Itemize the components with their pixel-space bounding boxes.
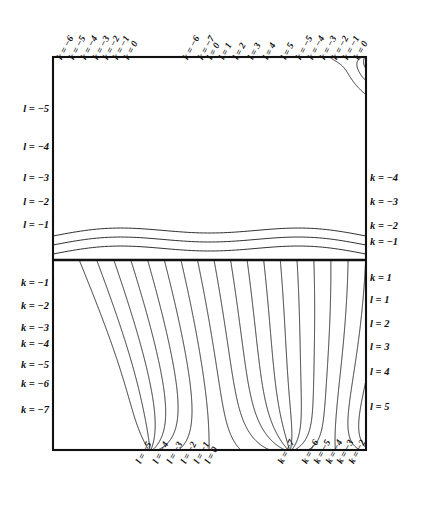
conformal-grid-figure: k = −6k = −5k = −4k = −3k = −2k = −1k = … <box>0 0 421 505</box>
grid-curve <box>292 260 302 450</box>
grid-curve <box>53 228 366 236</box>
grid-curve <box>214 260 270 450</box>
axis-label-right-3: k = −1 <box>370 237 398 248</box>
upper-region-curves <box>53 57 366 254</box>
grid-curve <box>330 57 366 95</box>
axis-label-left-6: k = −2 <box>21 301 49 312</box>
grid-curve <box>181 260 209 450</box>
grid-curves-svg <box>0 0 421 505</box>
axis-label-right-4: k = 1 <box>370 273 392 284</box>
axis-label-right-5: l = 1 <box>370 295 389 306</box>
axis-label-left-2: l = −3 <box>23 173 49 184</box>
axis-label-left-8: k = −4 <box>21 339 49 350</box>
axis-label-right-1: k = −3 <box>370 197 398 208</box>
axis-label-right-6: l = 2 <box>370 319 389 330</box>
grid-curve <box>148 260 178 450</box>
axis-label-left-9: k = −5 <box>21 360 49 371</box>
axis-label-right-0: k = −4 <box>370 173 398 184</box>
grid-curve <box>264 260 290 450</box>
axis-label-left-0: l = −5 <box>23 104 49 115</box>
grid-curve <box>348 260 366 450</box>
grid-curve <box>295 260 315 450</box>
axis-label-right-8: l = 4 <box>370 367 389 378</box>
axis-label-right-2: k = −2 <box>370 221 398 232</box>
axis-label-left-7: k = −3 <box>21 323 49 334</box>
axis-label-right-7: l = 3 <box>370 342 389 353</box>
grid-curve <box>359 380 366 448</box>
axis-label-left-11: k = −7 <box>21 405 49 416</box>
grid-curve <box>79 260 149 450</box>
axis-label-left-3: l = −2 <box>23 197 49 208</box>
grid-curve <box>231 260 285 450</box>
axis-label-right-9: l = 5 <box>370 402 389 413</box>
axis-label-left-4: l = −1 <box>23 220 49 231</box>
grid-curve <box>53 246 366 254</box>
axis-label-left-1: l = −4 <box>23 142 49 153</box>
grid-curve <box>114 260 155 450</box>
lower-region-curves <box>79 260 366 450</box>
grid-curve <box>164 260 192 450</box>
axis-label-left-5: k = −1 <box>21 278 49 289</box>
grid-curve <box>335 260 348 450</box>
grid-curve <box>53 237 366 245</box>
axis-label-left-10: k = −6 <box>21 379 49 390</box>
figure-frame <box>53 57 366 450</box>
